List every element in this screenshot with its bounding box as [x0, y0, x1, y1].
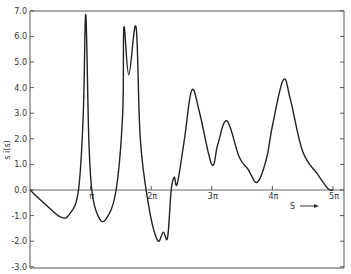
y-tick-label: 7.0	[14, 7, 27, 16]
x-axis-ticks: π2π3π4π5π	[89, 186, 339, 201]
y-tick-label: 5.0	[14, 58, 27, 67]
y-tick-label: 4.0	[14, 84, 27, 93]
y-tick-label: -3.0	[11, 263, 27, 272]
plot-frame	[30, 11, 344, 268]
line-chart: 7.06.05.04.03.02.01.00.0-1.0-2.0-3.0 π2π…	[0, 0, 351, 274]
y-tick-label: 6.0	[14, 32, 27, 41]
y-tick-label: 0.0	[14, 186, 27, 195]
x-tick-label: 2π	[147, 192, 157, 201]
y-tick-label: -1.0	[11, 212, 27, 221]
y-axis-label: s i(s)	[3, 140, 12, 159]
y-tick-label: 3.0	[14, 109, 27, 118]
x-tick-label: 5π	[329, 192, 339, 201]
x-axis-label-group: S	[290, 202, 319, 211]
x-tick-label: 4π	[268, 192, 278, 201]
y-axis-ticks: 7.06.05.04.03.02.01.00.0-1.0-2.0-3.0	[11, 7, 344, 272]
data-curve	[30, 14, 333, 241]
arrow-head-icon	[314, 204, 319, 208]
y-tick-label: 2.0	[14, 135, 27, 144]
y-tick-label: -2.0	[11, 237, 27, 246]
x-tick-label: 3π	[208, 192, 218, 201]
y-tick-label: 1.0	[14, 160, 27, 169]
x-axis-label: S	[290, 202, 295, 211]
